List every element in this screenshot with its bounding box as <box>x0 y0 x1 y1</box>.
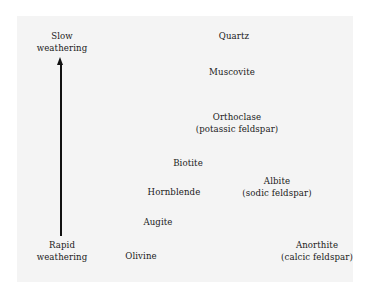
mineral-name: Quartz <box>219 30 249 42</box>
mineral-hornblende: Hornblende <box>148 186 201 198</box>
mineral-name: Olivine <box>125 250 156 262</box>
mineral-quartz: Quartz <box>219 30 249 42</box>
weathering-arrow-line <box>60 64 62 236</box>
rapid-weathering-label: Rapid weathering <box>37 239 88 263</box>
rapid-label-line1: Rapid <box>37 239 88 251</box>
mineral-name: Orthoclase <box>196 111 279 123</box>
mineral-anorthite: Anorthite (calcic feldspar) <box>281 239 353 263</box>
slow-label-line1: Slow <box>37 30 88 42</box>
mineral-name: Muscovite <box>209 66 255 78</box>
mineral-name: Biotite <box>173 157 203 169</box>
mineral-olivine: Olivine <box>125 250 156 262</box>
mineral-orthoclase: Orthoclase (potassic feldspar) <box>196 111 279 135</box>
mineral-name: Hornblende <box>148 186 201 198</box>
mineral-name: Albite <box>242 175 311 187</box>
slow-label-line2: weathering <box>37 42 88 54</box>
mineral-albite: Albite (sodic feldspar) <box>242 175 311 199</box>
slow-weathering-label: Slow weathering <box>37 30 88 54</box>
mineral-subtitle: (sodic feldspar) <box>242 187 311 199</box>
mineral-name: Anorthite <box>281 239 353 251</box>
mineral-augite: Augite <box>143 216 172 228</box>
mineral-biotite: Biotite <box>173 157 203 169</box>
mineral-subtitle: (potassic feldspar) <box>196 123 279 135</box>
rapid-label-line2: weathering <box>37 251 88 263</box>
mineral-subtitle: (calcic feldspar) <box>281 251 353 263</box>
mineral-name: Augite <box>143 216 172 228</box>
mineral-muscovite: Muscovite <box>209 66 255 78</box>
